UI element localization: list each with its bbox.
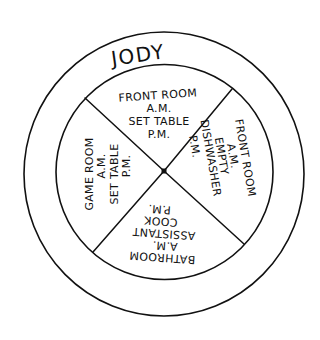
wheel-name: JODY — [108, 39, 167, 71]
section-left-line-4: P.M. — [120, 155, 133, 178]
chore-wheel: JODY FRONT ROOM A.M. SET TABLE P.M. FRON… — [0, 0, 320, 340]
section-left: GAME ROOM A.M. SET TABLE P.M. — [83, 137, 133, 210]
outer-circle — [24, 32, 304, 316]
section-top-line-3: SET TABLE — [129, 115, 190, 128]
section-left-line-2: A.M. — [95, 153, 108, 178]
section-right: FRONT ROOM A.M. EMPTY DISHWASHER P.M. — [184, 113, 259, 206]
center-hub — [162, 169, 167, 174]
section-top-line-4: P.M. — [148, 128, 171, 141]
section-top: FRONT ROOM A.M. SET TABLE P.M. — [118, 86, 197, 141]
section-top-line-2: A.M. — [146, 102, 171, 115]
section-right-line-5: P.M. — [186, 134, 203, 159]
section-bottom: BATHROOM A.M. ASSISTANT COOK P.M. — [129, 201, 199, 266]
section-bottom-line-5: P.M. — [148, 202, 171, 217]
